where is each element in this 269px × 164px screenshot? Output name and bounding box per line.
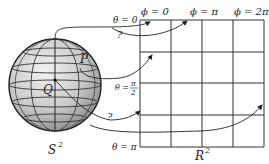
question-mark-bottom: ? (107, 111, 113, 122)
question-mark-top: ? (117, 29, 123, 40)
label-theta-half-num: π (130, 80, 136, 88)
plane-grid (140, 20, 264, 147)
label-theta-pi: θ = π (112, 142, 138, 152)
label-q: Q (43, 83, 53, 97)
label-theta-0: θ = 0 (113, 15, 138, 25)
label-p: P (79, 52, 89, 66)
label-s2-sup: 2 (57, 140, 63, 149)
label-phi-pi: ϕ = π (190, 6, 219, 17)
label-theta-half-prefix: θ = (115, 83, 129, 92)
label-theta-half-den: 2 (130, 89, 136, 97)
label-s2: S (48, 143, 56, 157)
sphere-to-plane-diagram: P Q S 2 R 2 ? ? ϕ = 0 ϕ = π ϕ = 2π θ = 0… (0, 0, 269, 164)
label-r2-sup: 2 (204, 146, 210, 155)
arrow-q-right (90, 105, 262, 132)
label-r2: R (194, 149, 204, 163)
label-phi-2pi: ϕ = 2π (234, 6, 269, 17)
label-phi-0: ϕ = 0 (141, 6, 170, 17)
